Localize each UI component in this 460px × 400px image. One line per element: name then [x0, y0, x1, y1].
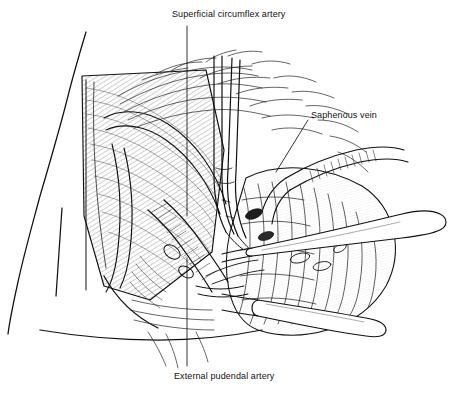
label-saphenous-vein: Saphenous vein [311, 110, 377, 121]
lower-tissue [130, 300, 214, 368]
illustration-canvas [0, 0, 460, 400]
anatomical-figure: Superficial circumflex artery Saphenous … [0, 0, 460, 400]
label-external-pudendal-artery: External pudendal artery [174, 371, 274, 382]
fascia-lata [82, 70, 232, 300]
label-superficial-circumflex-artery: Superficial circumflex artery [172, 9, 285, 20]
